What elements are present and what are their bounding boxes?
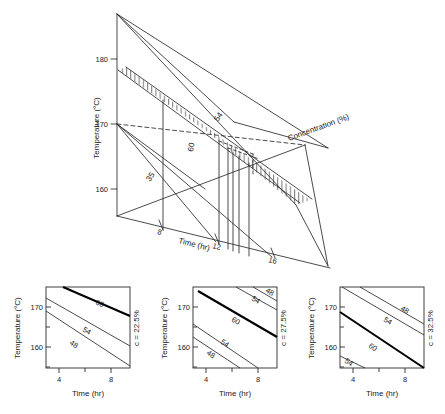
subplot-middle-ylabel-170: 170	[177, 303, 190, 312]
subplot-middle-xlabel-8: 8	[256, 375, 260, 384]
main-x-axis	[117, 216, 330, 268]
figure-root: 180 170 160 8 12 16 Temperature (°C) Tim…	[0, 0, 445, 414]
subplot-right-y-axis-title: Temperature (°C)	[307, 297, 316, 359]
subplot-left-ylabel-160: 160	[30, 343, 43, 352]
subplot-left-xlabel-4: 4	[57, 375, 61, 384]
subplot-right-xlabel-8: 8	[403, 375, 407, 384]
subplot-left-y-axis-title: Temperature (°C)	[13, 297, 22, 359]
subplot-right-concentration-label: c = 32.5%	[426, 310, 435, 346]
subplot-right-x-axis-title: Time (hr)	[366, 389, 398, 398]
subplot-middle-contour-label-54-lower: 54	[219, 337, 231, 349]
subplot-left-contour-label-48: 48	[68, 338, 80, 350]
subplot-middle: 170 160 4 8 Time (hr) Temperature (°C) c…	[147, 279, 295, 414]
main-surface-edge-d	[117, 124, 216, 242]
main-x-axis-title: Time (hr)	[178, 236, 212, 253]
subplot-middle-y-axis-title: Temperature (°C)	[160, 297, 169, 359]
main-y-ticklabel-180: 180	[95, 55, 108, 64]
subplot-left-ylabel-170: 170	[30, 303, 43, 312]
subplot-middle-concentration-label: c = 27.5%	[279, 310, 288, 346]
subplot-right-ylabel-170: 170	[324, 303, 337, 312]
main-surface-edge-g	[296, 205, 328, 266]
subplot-middle-contour-label-48-upper: 48	[264, 286, 276, 298]
main-y-ticklabel-160: 160	[95, 185, 108, 194]
subplot-middle-contour-label-60: 60	[230, 315, 242, 327]
subplot-left-contour-label-60: 60	[94, 298, 105, 310]
subplot-right-ylabel-160: 160	[324, 343, 337, 352]
main-y-axis-title: Temperature (°C)	[92, 97, 101, 159]
subplot-left: 170 160 4 8 Time (hr) Temperature (°C) c…	[0, 279, 148, 414]
main-x-ticklabel-12: 12	[212, 241, 222, 252]
subplot-left-concentration-label: c = 22.5%	[132, 310, 141, 346]
main-x-ticklabel-8: 8	[157, 227, 163, 237]
subplot-right-contour-label-48: 48	[399, 304, 411, 316]
subplot-right: 170 160 4 8 Time (hr) Temperature (°C) c…	[294, 279, 445, 414]
main-3d-plot: 180 170 160 8 12 16 Temperature (°C) Tim…	[0, 0, 445, 280]
main-surface-edge-f	[117, 124, 205, 189]
main-contour-label-35: 35	[144, 170, 157, 183]
subplot-middle-contour-label-48-lower: 48	[205, 348, 217, 360]
subplot-middle-contour-60	[198, 291, 277, 337]
subplot-right-contour-label-60: 60	[367, 341, 379, 353]
subplot-right-xlabel-4: 4	[351, 375, 355, 384]
subplot-middle-x-axis-title: Time (hr)	[219, 389, 251, 398]
subplot-left-x-axis-title: Time (hr)	[72, 389, 104, 398]
subplot-left-xlabel-8: 8	[109, 375, 113, 384]
subplot-right-contour-54-upper	[342, 287, 424, 335]
subplot-middle-ylabel-160: 160	[177, 343, 190, 352]
subplot-middle-xlabel-4: 4	[204, 375, 208, 384]
main-contour-label-60: 60	[186, 141, 197, 152]
main-far-vertical-edge	[305, 145, 328, 266]
main-x-ticklabel-16: 16	[268, 255, 278, 266]
